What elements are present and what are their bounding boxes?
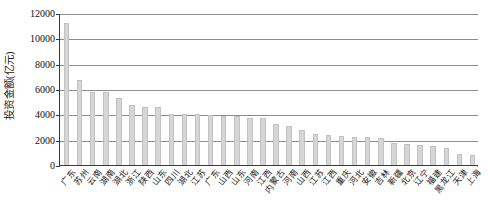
bar	[378, 138, 383, 165]
plot-area	[59, 14, 478, 166]
bar	[457, 154, 462, 165]
bar	[90, 92, 95, 165]
x-axis-tick-labels: 广东苏州云南湖南湖北浙江陕西山东四川湖北江苏广东山西山东河南江西内蒙古河南山西江…	[59, 168, 478, 222]
y-axis-tick-label: 10000	[30, 34, 55, 44]
bar	[365, 137, 370, 165]
bar	[208, 115, 213, 165]
bar	[116, 98, 121, 165]
y-axis-title: 投资金额(亿元)	[0, 0, 16, 170]
bar	[129, 105, 134, 165]
bar	[326, 135, 331, 165]
bar	[339, 136, 344, 165]
y-axis-tickmark	[56, 166, 60, 167]
y-axis-tick-label: 6000	[35, 85, 55, 95]
bar	[313, 134, 318, 165]
bar	[430, 146, 435, 165]
bar	[417, 145, 422, 165]
bar	[404, 144, 409, 165]
bar	[247, 118, 252, 166]
bar	[195, 114, 200, 165]
bar	[155, 107, 160, 165]
y-axis-tick-label: 12000	[30, 9, 55, 19]
y-axis-tick-label: 2000	[35, 136, 55, 146]
bar	[103, 92, 108, 165]
bar	[444, 148, 449, 165]
bar	[273, 124, 278, 165]
y-axis-title-label: 投资金额(亿元)	[1, 51, 16, 120]
bar	[286, 126, 291, 165]
bar	[299, 130, 304, 165]
y-axis-tick-label: 0	[50, 161, 55, 171]
y-axis-tick-label: 8000	[35, 60, 55, 70]
bar-chart-figure: 投资金额(亿元) 020004000600080001000012000 广东苏…	[0, 0, 489, 222]
bar	[64, 23, 69, 165]
x-axis-tick-label: 上海	[465, 168, 483, 187]
bar	[352, 137, 357, 166]
bar	[169, 114, 174, 165]
bars-layer	[60, 14, 478, 165]
bar	[182, 114, 187, 165]
y-axis-tick-labels: 020004000600080001000012000	[16, 14, 58, 166]
bar	[142, 107, 147, 165]
bar	[221, 116, 226, 165]
bar	[77, 80, 82, 165]
bar	[470, 155, 475, 165]
y-axis-tick-label: 4000	[35, 110, 55, 120]
bar	[260, 118, 265, 165]
bar	[234, 116, 239, 165]
bar	[391, 143, 396, 165]
